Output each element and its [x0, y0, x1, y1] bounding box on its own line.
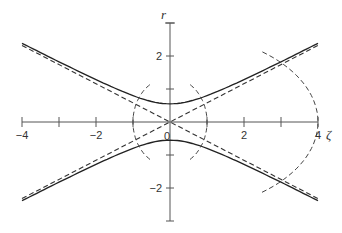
x-tick-label: 2 — [241, 129, 247, 141]
x-tick-label: −4 — [16, 129, 29, 141]
origin-label: 0 — [164, 130, 170, 142]
y-tick-label: 2 — [156, 50, 162, 62]
x-tick-label: −2 — [90, 129, 103, 141]
axes — [22, 23, 318, 221]
labels: −4−2242−20ζr — [16, 7, 332, 194]
y-axis-label: r — [161, 7, 167, 22]
y-tick-label: −2 — [149, 182, 162, 194]
x-tick-label: 4 — [315, 129, 321, 141]
hyperbola-diagram: −4−2242−20ζr — [0, 0, 342, 233]
x-axis-label: ζ — [326, 127, 332, 142]
